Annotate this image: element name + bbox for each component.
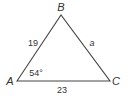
vertex-label-b: B — [57, 1, 64, 13]
angle-label-a: 54° — [29, 68, 43, 78]
vertex-label-c: C — [112, 75, 120, 87]
side-label-ab: 19 — [28, 38, 38, 48]
triangle-diagram: B A C 19 a 23 54° — [0, 0, 132, 107]
side-label-ac: 23 — [57, 85, 67, 95]
side-label-bc: a — [89, 38, 94, 48]
vertex-label-a: A — [5, 75, 13, 87]
